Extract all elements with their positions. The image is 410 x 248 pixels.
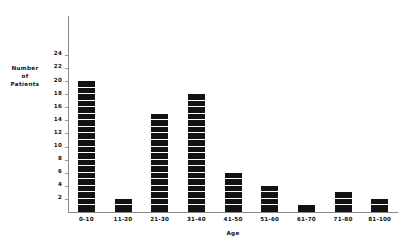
bar-slot xyxy=(178,16,215,212)
x-axis-tick-label: 0-10 xyxy=(68,216,105,223)
bar[interactable] xyxy=(225,173,242,212)
bar[interactable] xyxy=(335,192,352,212)
bar[interactable] xyxy=(188,94,205,212)
y-axis-tick-label: 16 xyxy=(54,103,62,109)
x-axis-tick-label: 31-40 xyxy=(178,216,215,223)
x-axis-tick-label: 61-70 xyxy=(288,216,325,223)
bar[interactable] xyxy=(78,81,95,212)
bar-slot xyxy=(361,16,398,212)
bar-segment xyxy=(261,205,278,212)
x-axis-tick-label: 11-20 xyxy=(105,216,142,223)
bar-slot xyxy=(251,16,288,212)
y-axis-tick-label: 6 xyxy=(58,168,62,174)
y-axis-tick-label: 18 xyxy=(54,90,62,96)
y-axis-tick-label: 20 xyxy=(54,77,62,83)
x-axis-line xyxy=(68,212,398,213)
x-axis-tick-label: 41-50 xyxy=(215,216,252,223)
x-axis-tick-label: 21-30 xyxy=(141,216,178,223)
bar-segment xyxy=(371,205,388,212)
bar[interactable] xyxy=(261,186,278,212)
x-axis-tick-label: 81-100 xyxy=(361,216,398,223)
bar-slot xyxy=(141,16,178,212)
bar-segment xyxy=(225,205,242,212)
y-axis-ticks: 24681012141618202224 xyxy=(0,0,68,248)
y-axis-tick-label: 4 xyxy=(58,181,62,187)
x-axis-tick-labels: 0-1011-2021-3031-4041-5051-6061-7071-808… xyxy=(68,216,398,223)
bar-series xyxy=(68,16,398,212)
bar-segment xyxy=(115,205,132,212)
bar-slot xyxy=(325,16,362,212)
bar-segment xyxy=(335,205,352,212)
x-axis-tick-label: 71-80 xyxy=(325,216,362,223)
bar-slot xyxy=(68,16,105,212)
bar-slot xyxy=(215,16,252,212)
bar-segment xyxy=(78,205,95,212)
y-axis-tick-label: 22 xyxy=(54,63,62,69)
y-axis-tick-label: 2 xyxy=(58,194,62,200)
y-axis-tick-label: 24 xyxy=(54,50,62,56)
bar[interactable] xyxy=(151,114,168,212)
bar-segment xyxy=(151,205,168,212)
y-axis-tick-label: 14 xyxy=(54,116,62,122)
x-axis-tick-label: 51-60 xyxy=(251,216,288,223)
x-axis-title: Age xyxy=(68,230,398,237)
bar[interactable] xyxy=(298,205,315,212)
y-axis-tick-label: 8 xyxy=(58,155,62,161)
y-axis-tick-label: 12 xyxy=(54,129,62,135)
bar[interactable] xyxy=(371,199,388,212)
bar-chart: Number of Patients 24681012141618202224 … xyxy=(0,0,410,248)
y-axis-tick-label: 10 xyxy=(54,142,62,148)
bar-segment xyxy=(188,205,205,212)
bar-slot xyxy=(288,16,325,212)
bar[interactable] xyxy=(115,199,132,212)
bar-slot xyxy=(105,16,142,212)
bar-segment xyxy=(298,205,315,212)
